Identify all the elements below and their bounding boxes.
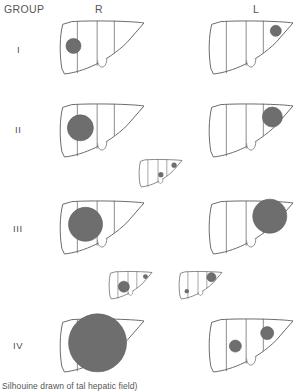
liver-panel-iv-r [60, 314, 144, 372]
liver-panel-ii-r [60, 104, 144, 157]
tumor-nodule-1 [270, 25, 281, 36]
tumor-nodule-1 [262, 107, 282, 127]
tumor-nodule-1 [253, 199, 287, 233]
figure-caption: Silhouine drawn of tal hepatic field) [2, 381, 138, 391]
tumor-nodule-2 [185, 289, 189, 293]
tumor-nodule-2 [143, 274, 148, 279]
tumor-nodule-1 [207, 273, 216, 282]
group-label-ii: II [15, 125, 21, 135]
liver-panel-ii-inset-r [139, 159, 182, 187]
tumor-nodule-1 [171, 163, 176, 168]
liver-nodule-distribution-figure: GROUP R L I II III IV Silhouine drawn of… [0, 0, 301, 391]
liver-panel-iv-l [209, 319, 293, 372]
liver-panel-i-l [209, 21, 293, 74]
liver-panel-iii-r [60, 201, 144, 254]
liver-panel-iii-l [209, 199, 293, 254]
column-header-right: R [95, 4, 103, 15]
column-header-left: L [253, 4, 259, 15]
liver-panel-iii-inset-l [179, 271, 222, 299]
group-label-iii: III [13, 224, 23, 234]
column-header-group: GROUP [4, 4, 45, 15]
liver-panel-iii-inset-r [109, 271, 152, 299]
liver-diagram-canvas [0, 0, 301, 391]
tumor-nodule-1 [229, 340, 241, 352]
tumor-nodule-1 [67, 115, 93, 141]
tumor-nodule-1 [69, 207, 103, 241]
tumor-nodule-1 [118, 281, 129, 292]
group-label-iv: IV [13, 341, 23, 351]
tumor-nodule-1 [66, 38, 81, 53]
liver-panel-ii-l [209, 104, 293, 157]
group-label-i: I [17, 45, 20, 55]
liver-panel-i-r [60, 21, 144, 74]
tumor-nodule-2 [158, 172, 163, 177]
tumor-nodule-1 [69, 314, 127, 372]
tumor-nodule-2 [261, 327, 274, 340]
